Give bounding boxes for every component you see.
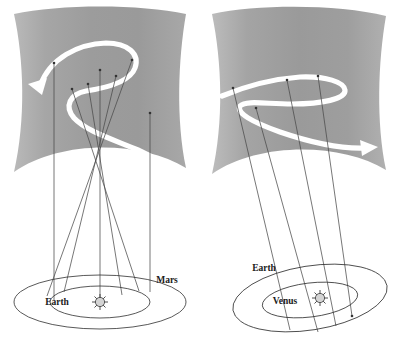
endpoint-dot	[71, 88, 74, 91]
endpoint-dot	[232, 87, 235, 90]
endpoint-dot	[53, 62, 56, 65]
endpoint-dot	[115, 75, 118, 78]
sun-glyph-right	[312, 290, 328, 306]
endpoint-dot	[351, 315, 354, 318]
venus-retrograde-panel: Earth Venus	[212, 7, 392, 342]
endpoint-dot	[87, 83, 90, 86]
label-mars: Mars	[156, 275, 178, 285]
label-earth-left: Earth	[45, 297, 69, 307]
endpoint-dot	[317, 75, 320, 78]
mars-retrograde-panel: Earth Mars	[14, 7, 186, 330]
label-earth-right: Earth	[252, 263, 276, 273]
celestial-sphere-patch-right	[212, 7, 386, 254]
endpoint-dot	[255, 107, 258, 110]
endpoint-dot	[286, 79, 289, 82]
retrograde-motion-figure: Earth Mars	[0, 0, 400, 343]
endpoint-dot	[149, 112, 152, 115]
endpoint-dot	[99, 69, 102, 72]
sun-glyph-left	[92, 294, 108, 310]
label-venus: Venus	[273, 296, 298, 306]
endpoint-dot	[131, 59, 134, 62]
